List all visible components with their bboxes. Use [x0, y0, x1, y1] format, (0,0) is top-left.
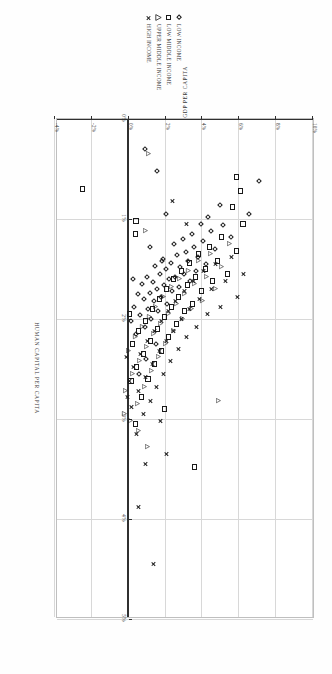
y-axis-tick — [128, 116, 129, 119]
data-point-x — [209, 286, 214, 291]
data-point-x — [138, 351, 143, 356]
legend-item-high-income[interactable]: HIGH INCOME — [145, 14, 152, 90]
x-tick-label: 5% — [121, 614, 126, 621]
data-point-x — [123, 354, 128, 359]
legend-item-upper-middle-income[interactable]: UPPER MIDDLE INCOME — [155, 14, 162, 90]
data-point-x — [163, 338, 168, 343]
data-point-diamond — [138, 312, 143, 317]
data-point-diamond — [168, 260, 173, 265]
data-point-x — [150, 561, 155, 566]
x-axis-tick — [129, 519, 132, 520]
data-point-diamond — [150, 279, 155, 284]
data-point-diamond — [174, 252, 179, 257]
data-point-triangle — [217, 251, 222, 256]
x-icon — [145, 14, 152, 21]
data-point-x — [129, 404, 134, 409]
x-tick-label: 3% — [121, 414, 126, 421]
data-point-x — [136, 504, 141, 509]
data-point-x — [191, 278, 196, 283]
data-point-x — [141, 411, 146, 416]
y-tick-label: 10% — [311, 123, 316, 133]
data-point-triangle — [198, 306, 203, 311]
gridline-horizontal — [54, 119, 55, 617]
x-tick-label: 2% — [121, 314, 126, 321]
data-point-diamond — [132, 304, 137, 309]
data-point-diamond — [220, 222, 225, 227]
data-point-diamond — [153, 263, 158, 268]
data-point-x — [127, 378, 132, 383]
data-point-x — [147, 398, 152, 403]
y-tick-label: 4% — [201, 123, 206, 130]
data-point-diamond — [171, 241, 176, 246]
data-point-square — [130, 341, 135, 346]
data-point-x — [194, 324, 199, 329]
data-point-triangle — [228, 264, 233, 269]
data-point-diamond — [192, 244, 197, 249]
data-point-triangle — [153, 444, 158, 449]
y-axis-tick — [165, 116, 166, 119]
data-point-x — [125, 394, 130, 399]
data-point-x — [184, 334, 189, 339]
gridline-horizontal — [312, 119, 313, 617]
y-axis-tick — [202, 116, 203, 119]
data-point-x — [228, 254, 233, 259]
data-point-x — [171, 328, 176, 333]
y-axis-tick — [91, 116, 92, 119]
data-point-x — [176, 346, 181, 351]
data-point-triangle — [145, 428, 150, 433]
data-point-diamond — [256, 178, 261, 183]
diamond-icon — [175, 14, 182, 21]
data-point-diamond — [154, 286, 159, 291]
data-point-diamond — [201, 238, 206, 243]
data-point-diamond — [139, 281, 144, 286]
gridline-horizontal — [275, 119, 276, 617]
data-point-x — [201, 268, 206, 273]
data-point-square — [182, 308, 187, 313]
data-point-x — [241, 271, 246, 276]
data-point-triangle — [208, 298, 213, 303]
data-point-square — [234, 174, 239, 179]
data-point-x — [145, 338, 150, 343]
data-point-x — [169, 198, 174, 203]
data-point-square — [133, 231, 138, 236]
gridline-horizontal — [91, 119, 92, 617]
data-point-x — [204, 311, 209, 316]
data-point-square — [179, 268, 184, 273]
y-axis-tick — [312, 116, 313, 119]
y-tick-label: -2% — [90, 123, 95, 132]
data-point-diamond — [183, 249, 188, 254]
y-axis-line — [57, 119, 313, 120]
y-tick-label: 0% — [127, 123, 132, 130]
rotated-figure-container: LOW INCOME LOW MIDDLE INCOME UPPER MIDDL… — [0, 0, 332, 674]
data-point-square — [134, 218, 139, 223]
data-point-x — [179, 316, 184, 321]
data-point-square — [240, 221, 245, 226]
data-point-x — [173, 298, 178, 303]
data-point-diamond — [148, 244, 153, 249]
data-point-square — [80, 186, 85, 191]
data-point-square — [187, 260, 192, 265]
legend-item-low-income[interactable]: LOW INCOME — [175, 14, 182, 90]
data-point-square — [185, 282, 190, 287]
data-point-diamond — [189, 231, 194, 236]
data-point-triangle — [225, 398, 230, 403]
legend-item-low-middle-income[interactable]: LOW MIDDLE INCOME — [165, 14, 172, 90]
data-point-triangle — [188, 316, 193, 321]
data-point-x — [164, 451, 169, 456]
data-point-square — [196, 251, 201, 256]
data-point-square — [219, 234, 224, 239]
data-point-x — [166, 308, 171, 313]
legend-label: UPPER MIDDLE INCOME — [156, 24, 161, 90]
data-point-triangle — [130, 411, 135, 416]
data-point-square — [230, 204, 235, 209]
data-point-triangle — [204, 258, 209, 263]
data-point-triangle — [155, 151, 160, 156]
data-point-x — [187, 306, 192, 311]
data-point-diamond — [198, 221, 203, 226]
gridline-horizontal — [239, 119, 240, 617]
data-point-x — [159, 318, 164, 323]
y-axis-title: GDP PER CAPITA — [182, 66, 188, 118]
square-icon — [165, 14, 172, 21]
data-point-diamond — [152, 298, 157, 303]
data-point-triangle — [222, 286, 227, 291]
